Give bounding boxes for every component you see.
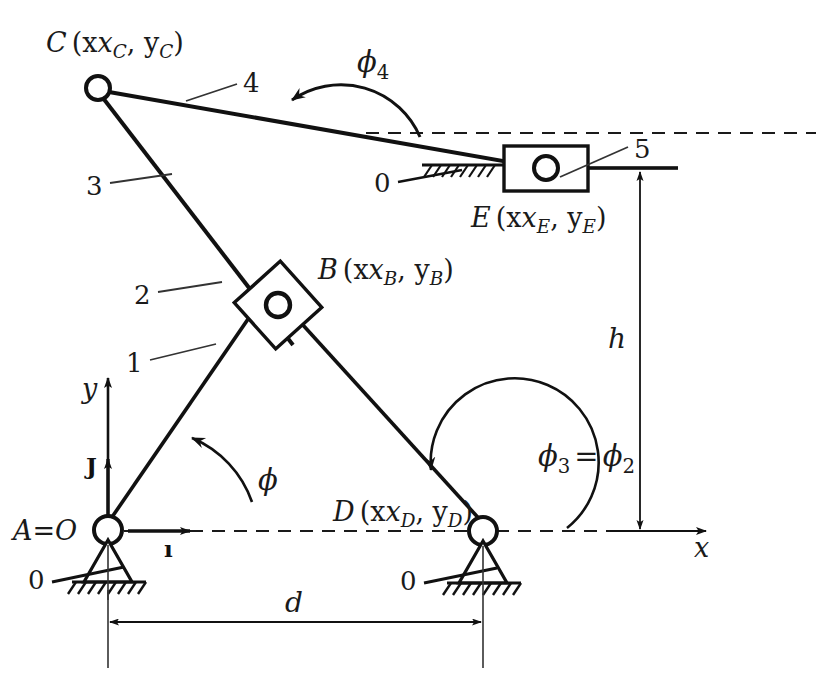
label-joint-E: E(xxE, yE) (470, 202, 607, 237)
label-joint-B: B(xxB, yB) (317, 254, 454, 289)
ground-support-A (52, 540, 146, 594)
label-link-5: 5 (634, 134, 651, 164)
joints (86, 76, 558, 545)
mechanism-diagram: C(xxC, yC) B(xxB, yB) D(xxD, yD) E(xxE, … (0, 0, 828, 688)
label-unit-vector-j: J (84, 452, 97, 479)
label-dimension-d: d (285, 586, 303, 619)
hatching-D (443, 583, 521, 595)
joint-B (266, 293, 290, 317)
ground-support-D (424, 541, 521, 595)
leader-link-2 (158, 282, 222, 292)
label-unit-vector-i: ı (164, 535, 173, 562)
label-axis-x: x (694, 532, 709, 563)
joint-C (86, 76, 110, 100)
label-joint-D: D(xxD, yD) (332, 496, 473, 531)
label-joint-A: A=O (10, 515, 77, 546)
label-link-1: 1 (126, 348, 143, 378)
arc-phi (192, 438, 252, 502)
label-ground-D: 0 (400, 566, 417, 596)
label-link-4: 4 (243, 68, 260, 98)
leader-link-1 (150, 344, 216, 360)
label-ground-E: 0 (374, 168, 391, 198)
label-link-3: 3 (86, 171, 103, 201)
label-joint-C: C(xxC, yC) (46, 27, 184, 62)
joint-E (534, 156, 558, 180)
label-ground-A: 0 (28, 565, 45, 595)
label-angle-phi3-phi2: ϕ3=ϕ2 (538, 439, 635, 478)
reference-lines (124, 133, 816, 531)
label-axis-y: y (81, 373, 98, 404)
label-angle-phi: ϕ (258, 463, 278, 497)
hatching-A (68, 582, 146, 594)
figure-canvas: C(xxC, yC) B(xxB, yB) D(xxD, yD) E(xxE, … (0, 0, 828, 688)
label-dimension-h: h (608, 322, 626, 355)
label-angle-phi4: ϕ4 (357, 45, 389, 84)
label-link-2: 2 (134, 280, 151, 310)
leader-link-4 (186, 84, 237, 101)
link-4-C-to-E (109, 92, 560, 171)
ground-support-E (398, 165, 504, 182)
